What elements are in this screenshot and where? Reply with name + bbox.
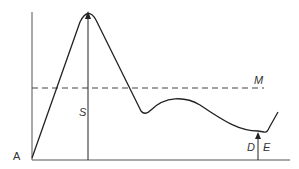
dip-arrow-head-icon bbox=[255, 132, 261, 139]
label-m: M bbox=[254, 75, 263, 86]
label-origin-a: A bbox=[13, 151, 20, 162]
diagram: A S M D E bbox=[0, 0, 299, 169]
label-e: E bbox=[263, 142, 270, 153]
label-s: S bbox=[79, 107, 86, 118]
response-curve bbox=[32, 13, 278, 158]
label-d: D bbox=[247, 142, 255, 153]
